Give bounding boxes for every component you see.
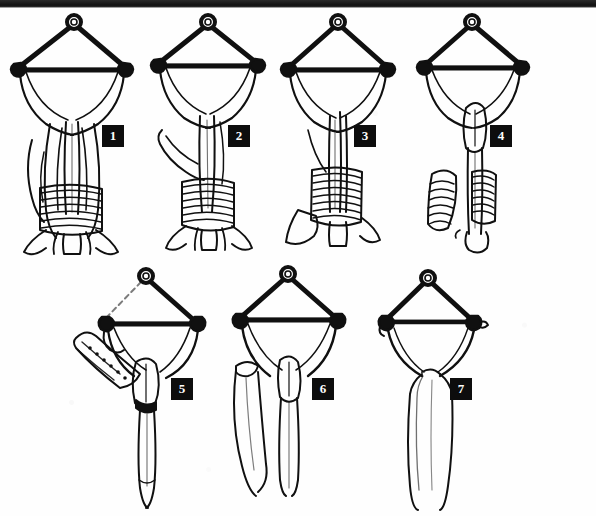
figure-badge-5: 5 xyxy=(172,379,192,399)
figure-7 xyxy=(366,264,496,514)
illustration-plate: 1 2 3 4 5 6 7 xyxy=(0,0,596,516)
figure-4 xyxy=(410,12,550,264)
figure-badge-3: 3 xyxy=(355,126,375,146)
figure-5 xyxy=(70,262,220,512)
figure-badge-1: 1 xyxy=(103,126,123,146)
figure-badge-4: 4 xyxy=(491,126,511,146)
figure-1 xyxy=(6,12,146,257)
figure-3 xyxy=(272,12,408,257)
scan-edge-bar xyxy=(0,0,596,7)
figure-badge-6: 6 xyxy=(313,379,333,399)
figure-2 xyxy=(140,12,276,257)
figure-6 xyxy=(222,262,362,512)
figure-badge-7: 7 xyxy=(451,379,471,399)
figure-badge-2: 2 xyxy=(229,126,249,146)
